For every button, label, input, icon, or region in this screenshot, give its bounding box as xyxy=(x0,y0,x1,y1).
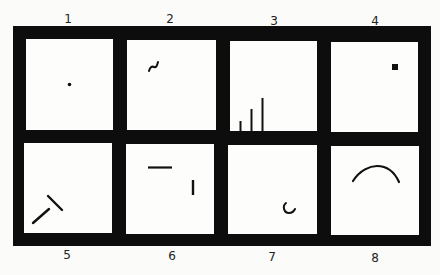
panel-label-7: 7 xyxy=(262,250,282,264)
long-diagonal-shape xyxy=(33,209,49,223)
short-diagonal-shape xyxy=(48,196,62,210)
panel-label-5: 5 xyxy=(57,248,77,262)
square-shape xyxy=(392,64,398,70)
stimulus-shapes xyxy=(0,0,440,275)
panel-label-6: 6 xyxy=(162,249,182,263)
c-arc-shape xyxy=(284,203,295,213)
panel-label-8: 8 xyxy=(365,251,385,265)
large-arc-shape xyxy=(353,166,399,182)
dot-shape xyxy=(68,83,72,87)
squiggle-shape xyxy=(149,62,158,71)
